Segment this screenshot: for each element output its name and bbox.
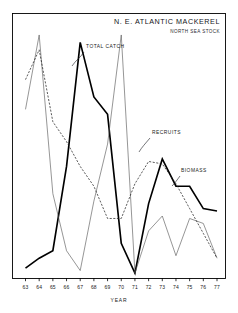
x-tick-label-74: 74 (173, 284, 179, 290)
x-tick-label-64: 64 (36, 284, 42, 290)
x-axis-label: YEAR (110, 297, 127, 303)
x-tick-label-65: 65 (50, 284, 56, 290)
x-tick-label-63: 63 (23, 284, 29, 290)
chart-title: N. E. ATLANTIC MACKEREL (114, 17, 220, 26)
x-tick-label-69: 69 (105, 284, 111, 290)
chart-svg: N. E. ATLANTIC MACKEREL NORTH SEA STOCK … (0, 0, 238, 313)
annotation-total-catch: TOTAL CATCH (86, 44, 124, 49)
x-tick-label-73: 73 (159, 284, 165, 290)
x-tick-label-67: 67 (77, 284, 83, 290)
annotation-biomass: BIOMASS (181, 168, 207, 173)
x-tick-label-76: 76 (200, 284, 206, 290)
x-tick-label-77: 77 (214, 284, 220, 290)
x-tick-label-68: 68 (91, 284, 97, 290)
x-tick-label-70: 70 (118, 284, 124, 290)
x-tick-label-72: 72 (146, 284, 152, 290)
x-tick-label-71: 71 (132, 284, 138, 290)
annotation-recruits: RECRUITS (152, 130, 181, 135)
x-tick-label-66: 66 (64, 284, 70, 290)
chart-figure: N. E. ATLANTIC MACKEREL NORTH SEA STOCK … (0, 0, 238, 313)
x-tick-label-75: 75 (187, 284, 193, 290)
chart-subtitle: NORTH SEA STOCK (170, 29, 220, 34)
